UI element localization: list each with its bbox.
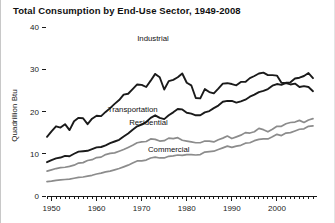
x-tick-label: 1970 [133,204,151,213]
y-tick-label: 30 [30,65,39,74]
x-tick-label: 1960 [88,204,106,213]
series-line-industrial [47,73,313,137]
x-tick-label: 1950 [43,204,61,213]
y-axis-title: Quadrillion Btu [10,89,19,141]
y-tick-label: 40 [30,23,39,32]
series-label-residential: Residential [129,118,168,127]
y-tick-label: 10 [30,150,39,159]
x-tick-label: 1990 [223,204,241,213]
chart-figure: Total Consumption by End-Use Sector, 194… [0,0,335,223]
series-label-industrial: Industrial [137,34,169,43]
x-tick-label: 2000 [268,204,286,213]
y-tick-label: 0 [35,192,40,201]
line-chart-plot: 010203040Quadrillion Btu1950196019701980… [1,0,335,223]
y-tick-label: 20 [30,108,39,117]
series-label-transportation: Transportation [108,105,158,114]
x-tick-label: 1980 [178,204,196,213]
series-label-commercial: Commercial [148,145,190,154]
